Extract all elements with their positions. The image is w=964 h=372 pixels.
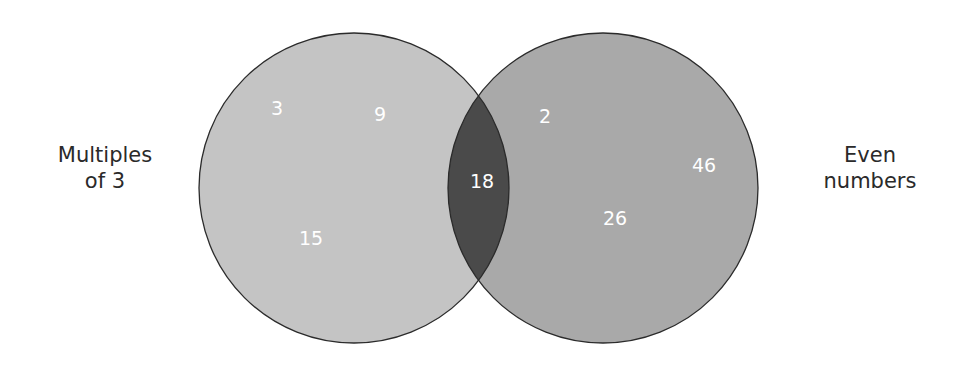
element-15: 15 [299,227,323,249]
element-9: 9 [374,103,386,125]
venn-diagram: 3 9 15 18 2 46 26 [0,0,964,372]
element-46: 46 [692,154,716,176]
element-18: 18 [470,170,494,192]
element-3: 3 [271,97,283,119]
element-26: 26 [603,207,627,229]
element-2: 2 [539,105,551,127]
